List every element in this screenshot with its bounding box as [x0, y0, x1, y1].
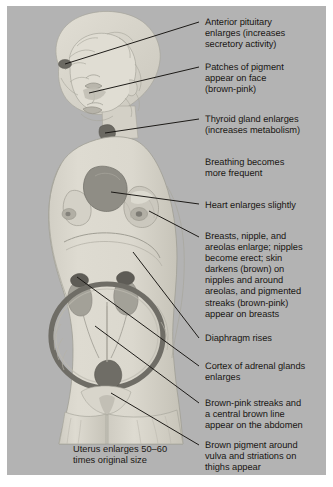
- callout-thyroid-gland: Thyroid gland enlarges (increases metabo…: [205, 114, 326, 136]
- uterus-caption: Uterus enlarges 50–60 times original siz…: [73, 444, 203, 467]
- callout-vulva-thigh-pigment: Brown pigment around vulva and striation…: [205, 440, 325, 473]
- callout-abdominal-streaks: Brown-pink streaks and a central brown l…: [205, 398, 325, 431]
- callout-adrenal-cortex: Cortex of adrenal glands enlarges: [205, 361, 326, 383]
- illustration-panel: Anterior pituitary enlarges (increases s…: [7, 6, 326, 475]
- callout-diaphragm: Diaphragm rises: [205, 333, 321, 344]
- callout-anterior-pituitary: Anterior pituitary enlarges (increases s…: [205, 17, 321, 50]
- callout-heart: Heart enlarges slightly: [205, 200, 326, 211]
- callout-breasts: Breasts, nipple, and areolas enlarge; ni…: [205, 231, 326, 320]
- callout-breathing: Breathing becomes more frequent: [205, 157, 321, 179]
- callout-face-pigment: Patches of pigment appear on face (brown…: [205, 62, 321, 95]
- callout-labels: Anterior pituitary enlarges (increases s…: [7, 6, 326, 475]
- figure-root: Anterior pituitary enlarges (increases s…: [0, 0, 333, 487]
